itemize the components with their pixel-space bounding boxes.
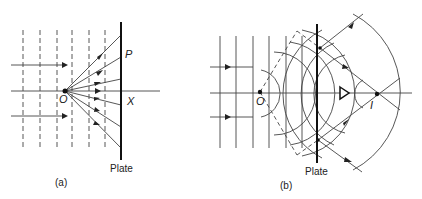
caption-a: (a) <box>55 177 67 188</box>
label-p: P <box>125 48 133 60</box>
plate-label-a: Plate <box>110 163 133 174</box>
label-o-a: O <box>59 93 68 105</box>
label-i: I <box>370 99 373 111</box>
plate-point-upper <box>318 46 322 50</box>
panel-a <box>11 22 160 160</box>
incident-rays-b <box>210 64 253 120</box>
rays-to-plate <box>65 35 121 148</box>
caption-b: (b) <box>280 180 292 191</box>
label-o-b: O <box>256 95 265 107</box>
eye-icon <box>340 87 349 99</box>
image-point-i <box>375 92 379 96</box>
point-source-o-b <box>258 90 262 94</box>
plate-label-b: Plate <box>305 166 328 177</box>
incident-rays <box>11 62 68 119</box>
panel-b <box>210 14 412 172</box>
converging-wavefronts-i <box>283 30 363 158</box>
label-x: X <box>126 95 135 107</box>
plate-point-lower <box>316 138 320 142</box>
holography-diagram: O P X Plate (a) <box>0 0 422 199</box>
